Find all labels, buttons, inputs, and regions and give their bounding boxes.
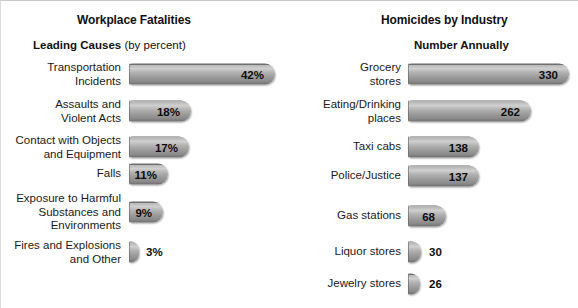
right-row-label-3: Police/Justice [291,169,401,183]
right-row-label-5: Liquor stores [291,245,401,259]
left-bar-value-5: 3% [146,246,163,258]
right-bar-value-3: 137 [449,170,468,182]
right-bar-value-0: 330 [539,68,558,80]
left-bar-5 [129,242,139,263]
left-bar-0: 42% [129,64,275,85]
left-bar-1: 18% [129,101,191,122]
left-row-label-4: Exposure to Harmful Substances and Envir… [1,192,121,233]
right-bar-6 [408,274,420,295]
left-row-label-0: Transportation Incidents [1,61,121,88]
right-bar-value-5: 30 [429,246,442,258]
right-row-label-4: Gas stations [291,209,401,223]
right-row-label-2: Taxi cabs [291,140,401,154]
right-bar-3: 137 [408,166,479,187]
left-row-label-2: Contact with Objects and Equipment [1,134,121,161]
left-subtitle-light: (by percent) [121,39,186,51]
right-bar-value-6: 26 [429,278,442,290]
right-row-label-6: Jewelry stores [291,277,401,291]
left-bar-value-4: 9% [135,206,152,218]
left-row-label-3: Falls [1,167,121,181]
left-bar-4: 9% [129,202,163,223]
right-bar-value-1: 262 [501,105,520,117]
left-bar-value-3: 11% [135,168,157,180]
left-bar-2: 17% [129,137,189,158]
right-bar-1: 262 [408,101,531,122]
left-bar-value-1: 18% [157,105,180,117]
right-bar-value-4: 68 [422,210,435,222]
left-row-label-5: Fires and Explosions and Other [1,239,121,266]
right-subtitle-strong: Number Annually [414,39,509,51]
infographic-canvas: Workplace Fatalities Leading Causes (by … [0,0,578,308]
right-row-label-0: Grocery stores [291,61,401,88]
right-bar-4: 68 [408,206,446,227]
left-panel-subtitle: Leading Causes (by percent) [33,39,186,51]
left-panel-title: Workplace Fatalities [77,13,191,27]
left-bar-value-2: 17% [155,141,178,153]
right-panel-subtitle: Number Annually [414,39,509,51]
left-bar-3: 11% [129,164,168,185]
right-bar-5 [408,242,421,263]
right-panel-title: Homicides by Industry [381,13,508,27]
left-bar-value-0: 42% [241,68,264,80]
right-bar-value-2: 138 [449,141,468,153]
right-row-label-1: Eating/Drinking places [291,98,401,125]
left-subtitle-strong: Leading Causes [33,39,121,51]
left-row-label-1: Assaults and Violent Acts [1,98,121,125]
right-bar-2: 138 [408,137,479,158]
right-bar-0: 330 [408,64,569,85]
